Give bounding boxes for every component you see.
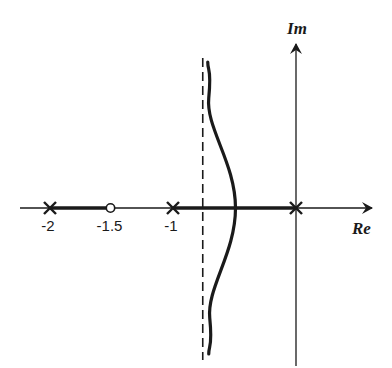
root-locus-diagram: -2-1.5-1 Re Im [0,0,392,368]
tick-label: -2 [41,217,54,234]
imaginary-axis-label: Im [286,19,307,38]
tick-label: -1.5 [97,217,123,234]
real-axis-label: Re [351,219,371,238]
zeros [106,204,114,212]
zero-marker [106,204,114,212]
lower-branch [209,208,236,354]
tick-label: -1 [164,217,177,234]
upper-branch [208,62,236,208]
tick-labels: -2-1.5-1 [41,217,177,234]
